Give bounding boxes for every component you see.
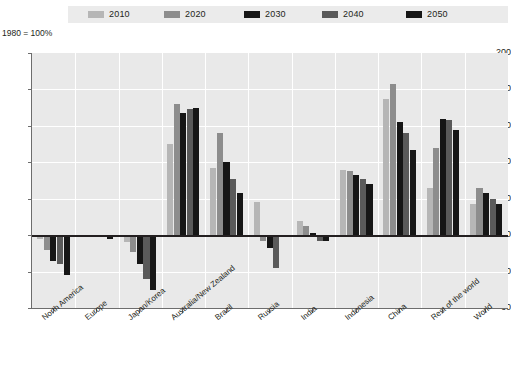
bar	[303, 226, 309, 235]
bar	[267, 235, 273, 248]
legend-swatch-icon	[406, 11, 422, 18]
bar	[297, 221, 303, 236]
legend-label: 2020	[185, 10, 206, 19]
vertical-gridline	[335, 53, 336, 308]
legend-item-2020[interactable]: 2020	[164, 6, 206, 23]
legend-item-2040[interactable]: 2040	[322, 6, 364, 23]
legend-label: 2040	[343, 10, 364, 19]
legend-swatch-icon	[88, 11, 104, 18]
bar	[470, 204, 476, 235]
bar	[476, 188, 482, 235]
bar	[254, 202, 260, 235]
legend-item-2010[interactable]: 2010	[88, 6, 130, 23]
bar	[347, 171, 353, 235]
bar	[64, 235, 70, 275]
chart-legend: 20102020203020402050	[68, 6, 508, 23]
legend-swatch-icon	[322, 11, 338, 18]
vertical-gridline	[465, 53, 466, 308]
bar	[490, 199, 496, 235]
bar	[440, 119, 446, 236]
bar	[353, 175, 359, 235]
vertical-gridline	[292, 53, 293, 308]
bar	[187, 109, 193, 235]
bar	[273, 235, 279, 268]
bar	[237, 193, 243, 235]
plot-area	[31, 53, 508, 308]
bar	[340, 170, 346, 236]
legend-label: 2030	[265, 10, 286, 19]
bar	[223, 162, 229, 235]
bar-group	[167, 53, 200, 308]
bar	[230, 179, 236, 235]
bar	[130, 235, 136, 251]
bar-group	[427, 53, 460, 308]
bar-group	[124, 53, 157, 308]
bar	[433, 148, 439, 235]
bar-group	[37, 53, 70, 308]
axis-note: 1980 = 100%	[2, 28, 52, 38]
vertical-gridline	[75, 53, 76, 308]
bar-group	[383, 53, 416, 308]
bar	[390, 84, 396, 235]
bar	[143, 235, 149, 279]
legend-item-2050[interactable]: 2050	[406, 6, 448, 23]
bar-chart: 20102020203020402050 1980 = 100% 6080100…	[0, 0, 511, 382]
legend-item-2030[interactable]: 2030	[244, 6, 286, 23]
bar	[57, 235, 63, 264]
vertical-gridline	[162, 53, 163, 308]
vertical-gridline	[119, 53, 120, 308]
bar	[50, 235, 56, 261]
legend-label: 2050	[427, 10, 448, 19]
bar	[360, 179, 366, 235]
bar	[193, 108, 199, 236]
bar	[496, 204, 502, 235]
bar	[403, 133, 409, 235]
bar	[366, 184, 372, 235]
bar	[167, 144, 173, 235]
bar	[44, 235, 50, 250]
vertical-gridline	[378, 53, 379, 308]
legend-swatch-icon	[244, 11, 260, 18]
vertical-gridline	[205, 53, 206, 308]
bar	[180, 113, 186, 235]
legend-swatch-icon	[164, 11, 180, 18]
bar-group	[80, 53, 113, 308]
bar	[137, 235, 143, 264]
zero-reference-line	[32, 235, 508, 237]
bar-group	[254, 53, 287, 308]
bar	[446, 120, 452, 235]
bar-group	[340, 53, 373, 308]
vertical-gridline	[248, 53, 249, 308]
bar	[210, 168, 216, 235]
bar	[217, 133, 223, 235]
bar	[383, 99, 389, 236]
bar-group	[297, 53, 330, 308]
bar	[427, 188, 433, 235]
bar	[174, 104, 180, 235]
bar	[150, 235, 156, 290]
bar	[410, 150, 416, 236]
legend-label: 2010	[109, 10, 130, 19]
vertical-gridline	[421, 53, 422, 308]
bar	[483, 193, 489, 235]
bar	[397, 122, 403, 235]
bar-group	[470, 53, 503, 308]
bar	[453, 130, 459, 236]
